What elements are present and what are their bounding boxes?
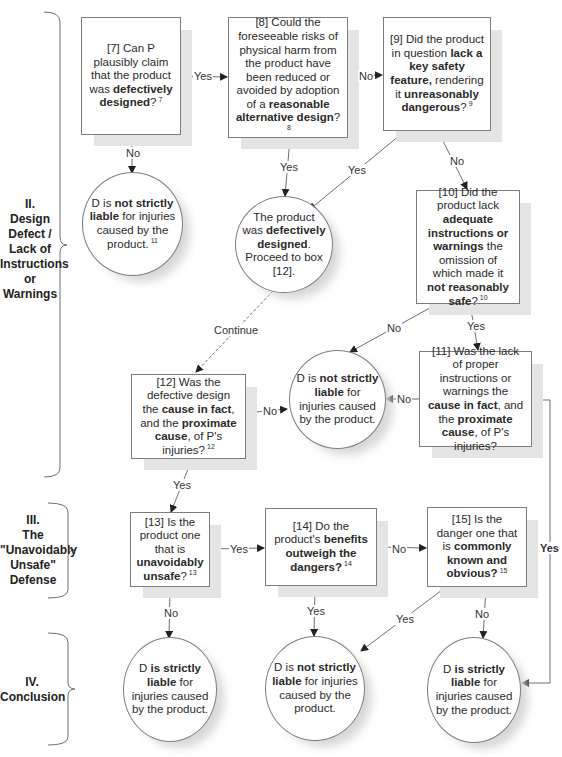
footnote-ref: 15 [500, 567, 508, 574]
box-7-defective-design-question: [7] Can P plausibly claim that the produ… [81, 17, 181, 135]
footnote-ref: 13 [189, 569, 197, 576]
section-label-line: Warnings [0, 287, 60, 302]
outcome-defectively-designed: The product was defectively designed. Pr… [235, 196, 333, 293]
edge-label-box12-notliable: No [262, 405, 278, 417]
section-label-line: "Unavoidably [0, 543, 66, 558]
footnote-ref: 7 [158, 96, 162, 103]
section-label-line: II. [0, 197, 60, 212]
edge-label-box9-defective: Yes [347, 164, 367, 176]
box-8-alternative-design-question: [8] Could the foreseeable risks of physi… [228, 17, 348, 138]
node-text: [8] Could the foreseeable risks of physi… [235, 16, 341, 138]
box-14-benefits-question: [14] Do the product's benefits outweigh … [265, 508, 377, 586]
section-label-line: Defense [0, 573, 66, 588]
flowchart: II.DesignDefect /Lack ofInstructionsorWa… [0, 0, 562, 757]
edge-label-box15-notliable: Yes [395, 613, 415, 625]
node-text: [10] Did the product lack adequate instr… [423, 186, 513, 308]
edge-label-box7-box8: Yes [193, 70, 213, 82]
edge-label-continue: Continue [213, 324, 259, 336]
outcome-strictly-liable-left: D is strictly liable for injuries caused… [123, 637, 217, 742]
edge-label-box7-circ11: No [125, 147, 141, 159]
node-text: [14] Do the product's benefits outweigh … [272, 520, 370, 574]
box-11-warnings-causation-question: [11] Was the lack of proper instructions… [419, 351, 532, 447]
node-text: [15] Is the danger one that is commonly … [434, 513, 520, 581]
edge-label-box8-box9: No [358, 70, 374, 82]
box-15-known-obvious-question: [15] Is the danger one that is commonly … [427, 507, 527, 587]
outcome-not-liable-middle: D is not strictly liable for injuries ca… [289, 350, 386, 449]
section-label-line: III. [0, 513, 66, 528]
edge-label-box14-box15: No [391, 543, 407, 555]
section-label-line: Conclusion [0, 690, 64, 705]
edge-label-box13-liable: No [163, 607, 179, 619]
node-text: D is strictly liable for injuries caused… [434, 663, 514, 717]
node-text: D is strictly liable for injuries caused… [130, 662, 210, 716]
edge-label-box13-box14: Yes [229, 543, 249, 555]
node-text: [7] Can P plausibly claim that the produ… [88, 42, 174, 110]
edge-label-box15-liable: No [474, 608, 490, 620]
node-text: [11] Was the lack of proper instructions… [426, 345, 525, 454]
box-12-design-causation-question: [12] Was the defective design the cause … [131, 374, 246, 459]
section-label-iii: III.The"UnavoidablyUnsafe"Defense [0, 513, 66, 588]
footnote-ref: 8 [287, 124, 291, 131]
node-text: D is not strictly liable for injuries ca… [272, 661, 358, 715]
section-label-line: Instructions [0, 257, 60, 272]
node-text: D is not strictly liable for injuries ca… [89, 197, 176, 251]
node-text: The product was defectively designed. Pr… [242, 211, 326, 279]
footnote-ref: 9 [469, 100, 473, 107]
node-text: [12] Was the defective design the cause … [138, 376, 239, 458]
node-text: [13] Is the product one that is unavoida… [136, 516, 203, 584]
edge-label-box8-defective: Yes [279, 161, 299, 173]
section-label-line: IV. [0, 675, 64, 690]
edge-label-box11-notliable: No [396, 393, 412, 405]
node-text: D is not strictly liable for injuries ca… [296, 372, 379, 426]
footnote-ref: 14 [344, 560, 352, 567]
section-label-line: Lack of [0, 242, 60, 257]
section-label-line: Defect / [0, 227, 60, 242]
section-label-ii: II.DesignDefect /Lack ofInstructionsorWa… [0, 197, 60, 302]
outcome-not-liable-bottom: D is not strictly liable for injuries ca… [265, 636, 365, 741]
section-label-iv: IV.Conclusion [0, 675, 64, 705]
footnote-ref: 11 [151, 237, 158, 244]
section-label-line: The [0, 528, 66, 543]
section-label-line: Unsafe" [0, 558, 66, 573]
footnote-ref: 12 [207, 443, 215, 450]
edge-label-box12-box13: Yes [172, 479, 192, 491]
box-10-warnings-question: [10] Did the product lack adequate instr… [416, 190, 520, 304]
section-label-line: or [0, 272, 60, 287]
edge-label-box14-notliable: Yes [306, 605, 326, 617]
box-13-unavoidably-unsafe-question: [13] Is the product one that is unavoida… [130, 512, 210, 587]
box-9-safety-feature-question: [9] Did the product in question lack a k… [383, 17, 491, 131]
node-text: [9] Did the product in question lack a k… [390, 33, 484, 115]
outcome-not-liable-11: D is not strictly liable for injuries ca… [82, 172, 183, 276]
edge-label-box9-box10: No [449, 155, 465, 167]
edge-label-box11-liable-right: Yes [539, 542, 560, 554]
edge-label-box10-notliable: No [386, 322, 402, 334]
section-label-line: Design [0, 212, 60, 227]
edge-label-box10-box11: Yes [466, 320, 486, 332]
outcome-strictly-liable-right: D is strictly liable for injuries caused… [427, 637, 521, 743]
footnote-ref: 10 [480, 294, 488, 301]
